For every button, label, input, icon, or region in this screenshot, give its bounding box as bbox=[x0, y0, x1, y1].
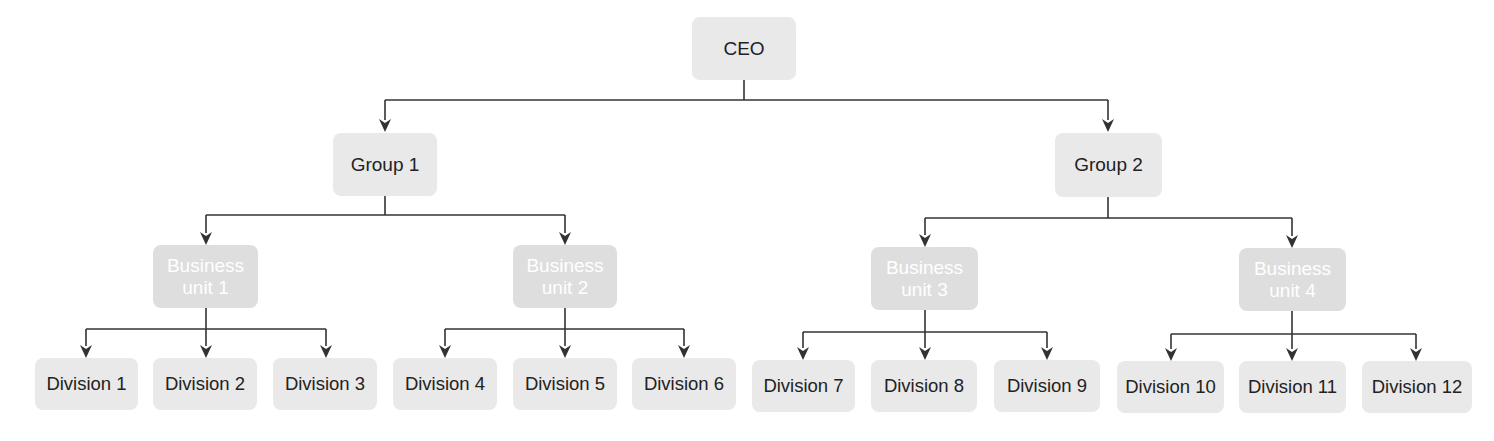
business-unit-4-line1: Business bbox=[1254, 258, 1331, 280]
node-business-unit-4: Business unit 4 bbox=[1239, 248, 1346, 311]
business-unit-3-line2: unit 3 bbox=[901, 279, 947, 301]
business-unit-4-line2: unit 4 bbox=[1269, 280, 1315, 302]
node-business-unit-2: Business unit 2 bbox=[513, 245, 617, 308]
business-unit-2-line1: Business bbox=[526, 255, 603, 277]
division-5-label: Division 5 bbox=[525, 373, 605, 394]
node-division-11: Division 11 bbox=[1239, 361, 1346, 413]
business-unit-3-line1: Business bbox=[886, 257, 963, 279]
division-8-label: Division 8 bbox=[884, 375, 964, 396]
division-2-label: Division 2 bbox=[165, 373, 245, 394]
node-division-5: Division 5 bbox=[513, 358, 617, 410]
node-group-2-label: Group 2 bbox=[1074, 154, 1143, 176]
node-group-1: Group 1 bbox=[333, 133, 437, 196]
node-ceo-label: CEO bbox=[723, 38, 764, 60]
node-division-1: Division 1 bbox=[35, 358, 138, 410]
node-ceo: CEO bbox=[692, 17, 796, 80]
node-division-6: Division 6 bbox=[632, 358, 736, 410]
division-11-label: Division 11 bbox=[1248, 376, 1337, 397]
division-4-label: Division 4 bbox=[405, 373, 485, 394]
arrowheads bbox=[80, 119, 1422, 361]
division-9-label: Division 9 bbox=[1007, 375, 1087, 396]
business-unit-1-line1: Business bbox=[167, 255, 244, 277]
division-6-label: Division 6 bbox=[644, 373, 724, 394]
node-group-2: Group 2 bbox=[1055, 133, 1162, 197]
division-3-label: Division 3 bbox=[285, 373, 365, 394]
business-unit-2-line2: unit 2 bbox=[542, 277, 588, 299]
node-division-2: Division 2 bbox=[153, 358, 257, 410]
node-business-unit-3: Business unit 3 bbox=[871, 247, 978, 310]
node-division-3: Division 3 bbox=[273, 358, 377, 410]
node-division-10: Division 10 bbox=[1117, 361, 1224, 413]
division-7-label: Division 7 bbox=[763, 375, 843, 396]
division-10-label: Division 10 bbox=[1125, 376, 1216, 397]
node-division-9: Division 9 bbox=[994, 360, 1100, 412]
division-12-label: Division 12 bbox=[1372, 376, 1463, 397]
node-division-4: Division 4 bbox=[393, 358, 497, 410]
node-division-7: Division 7 bbox=[752, 360, 855, 412]
division-1-label: Division 1 bbox=[46, 373, 126, 394]
node-group-1-label: Group 1 bbox=[351, 154, 420, 176]
node-division-12: Division 12 bbox=[1362, 361, 1472, 413]
node-business-unit-1: Business unit 1 bbox=[153, 245, 258, 308]
business-unit-1-line2: unit 1 bbox=[182, 277, 228, 299]
node-division-8: Division 8 bbox=[871, 360, 977, 412]
